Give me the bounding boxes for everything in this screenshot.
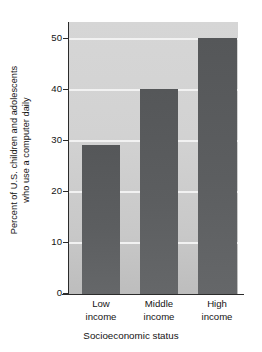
x-tick-label-high-income: High income: [187, 298, 247, 323]
y-tick-label-10: 10: [38, 237, 62, 247]
bar-middle-income: [140, 89, 178, 294]
plot-area: [69, 22, 238, 294]
x-tick-label-low-income: Low income: [71, 298, 131, 323]
y-tick-label-30: 30: [38, 135, 62, 145]
x-axis-line: [62, 294, 244, 295]
y-tick-label-40: 40: [38, 84, 62, 94]
bar-low-income: [82, 145, 120, 294]
x-axis-title: Socioeconomic status: [0, 330, 262, 342]
x-tick-low-line-1: Low: [71, 298, 131, 311]
x-axis-tick-labels: Low income Middle income High income: [69, 298, 238, 332]
y-axis-title: Percent of U.S. children and adolescents…: [0, 0, 40, 300]
y-tick-label-0: 0: [38, 288, 62, 298]
x-tick-high-line-1: High: [187, 298, 247, 311]
x-tick-middle-line-2: income: [129, 311, 189, 324]
x-tick-high-line-2: income: [187, 311, 247, 324]
y-tick-label-20: 20: [38, 186, 62, 196]
x-tick-middle-line-1: Middle: [129, 298, 189, 311]
y-axis-title-text: Percent of U.S. children and adolescents…: [9, 66, 32, 235]
bar-high-income: [198, 38, 237, 294]
y-tick-label-50: 50: [38, 33, 62, 43]
y-axis-line: [68, 22, 69, 294]
x-tick-label-middle-income: Middle income: [129, 298, 189, 323]
y-axis-title-line-2: who use a computer daily: [20, 66, 32, 235]
y-axis-tick-labels: 0 10 20 30 40 50: [38, 0, 62, 352]
y-axis-title-line-1: Percent of U.S. children and adolescents: [9, 66, 21, 235]
x-tick-low-line-2: income: [71, 311, 131, 324]
bar-chart-figure: Percent of U.S. children and adolescents…: [0, 0, 262, 352]
